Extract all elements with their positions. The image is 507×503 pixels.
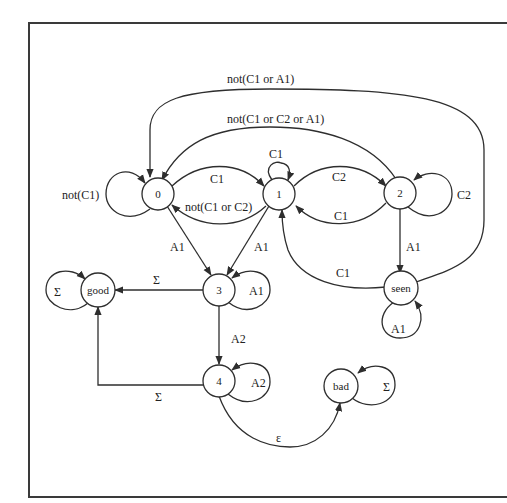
- edge-label: not(C1 or C2): [185, 200, 252, 214]
- edge-label: A1: [391, 322, 406, 336]
- edge-label: A2: [251, 376, 266, 390]
- node-label: 1: [276, 188, 282, 200]
- node-label: 4: [216, 375, 222, 387]
- edge-label: Σ: [383, 380, 390, 394]
- edge-label: C2: [332, 170, 346, 184]
- state-node-2: 2: [384, 177, 416, 209]
- node-label: seen: [391, 282, 411, 294]
- edge-3-to-4: A2: [219, 306, 246, 364]
- edge-label: not(C1): [62, 188, 99, 202]
- edge-2-self: C2: [408, 173, 471, 215]
- edge-label: A1: [254, 240, 269, 254]
- edge-1-self: C1: [268, 147, 289, 180]
- edge-label: C1: [210, 172, 224, 186]
- edge-2-to-seen: A1: [400, 209, 421, 273]
- edge-label: Σ: [155, 390, 162, 404]
- edge-0-self: not(C1): [62, 172, 150, 216]
- edge-label: C1: [269, 147, 283, 161]
- state-node-good: good: [81, 273, 115, 307]
- node-label: 2: [397, 187, 403, 199]
- edge-1-to-0: not(C1 or C2): [172, 200, 266, 224]
- edge-label: C1: [334, 209, 348, 223]
- edge-label: C1: [336, 266, 350, 280]
- state-node-4: 4: [203, 365, 235, 397]
- edge-3-to-good: Σ: [115, 273, 203, 290]
- node-label: 3: [216, 284, 222, 296]
- edge-label: A1: [406, 240, 421, 254]
- edge-seen-to-0: not(C1 or A1): [150, 72, 484, 282]
- state-node-1: 1: [263, 178, 295, 210]
- edge-label: Σ: [54, 285, 61, 299]
- edge-label: A1: [249, 284, 264, 298]
- edge-label: A2: [231, 332, 246, 346]
- edge-label: A1: [170, 240, 185, 254]
- node-label: good: [87, 284, 110, 296]
- edge-1-to-2: C2: [294, 167, 386, 187]
- edge-0-to-1: C1: [172, 167, 264, 187]
- state-node-3: 3: [203, 274, 235, 306]
- edge-seen-self: A1: [382, 301, 421, 338]
- edge-1-to-3: A1: [227, 206, 269, 275]
- node-label: 0: [155, 188, 161, 200]
- edge-label: not(C1 or C2 or A1): [227, 112, 324, 126]
- edge-4-to-good: Σ: [98, 307, 203, 404]
- edge-label: Σ: [153, 273, 160, 287]
- state-node-0: 0: [142, 178, 174, 210]
- state-node-bad: bad: [324, 369, 358, 403]
- state-node-seen: seen: [384, 271, 418, 305]
- state-diagram: not(C1 or A1) not(C1 or C2 or A1) not(C1…: [0, 0, 507, 503]
- edge-label: C2: [457, 188, 471, 202]
- edge-label: not(C1 or A1): [227, 72, 294, 86]
- edge-label: ε: [276, 431, 281, 445]
- edge-2-to-1: C1: [296, 203, 386, 224]
- edge-4-to-bad: ε: [219, 396, 340, 447]
- node-label: bad: [333, 380, 349, 392]
